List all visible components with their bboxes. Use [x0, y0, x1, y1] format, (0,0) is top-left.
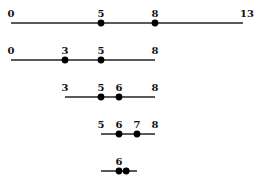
point-marker [98, 57, 105, 64]
tick-label: 8 [152, 82, 159, 93]
point-marker [152, 20, 159, 27]
tick-label: 3 [62, 45, 69, 56]
point-marker [62, 57, 69, 64]
tick-label: 5 [98, 45, 105, 56]
tick-label: 8 [152, 45, 159, 56]
point-marker [123, 168, 130, 175]
number-line-row-4: 5678 [98, 119, 159, 137]
number-line-row-5: 6 [101, 156, 137, 174]
tick-label: 5 [98, 119, 105, 130]
point-marker [98, 20, 105, 27]
tick-label: 5 [98, 8, 105, 19]
tick-label: 13 [240, 8, 254, 19]
number-line-diagram: 058130358356856786 [0, 0, 258, 182]
point-marker [98, 94, 105, 101]
tick-label: 6 [116, 156, 123, 167]
number-line-row-1: 05813 [8, 8, 254, 26]
tick-label: 5 [98, 82, 105, 93]
tick-label: 8 [152, 8, 159, 19]
point-marker [116, 131, 123, 138]
tick-label: 8 [152, 119, 159, 130]
number-line-row-2: 0358 [8, 45, 159, 63]
tick-label: 6 [116, 119, 123, 130]
tick-label: 7 [134, 119, 141, 130]
tick-label: 0 [8, 8, 15, 19]
number-line-row-3: 3568 [62, 82, 159, 100]
point-marker [134, 131, 141, 138]
tick-label: 3 [62, 82, 69, 93]
point-marker [116, 94, 123, 101]
point-marker [116, 168, 123, 175]
tick-label: 0 [8, 45, 15, 56]
tick-label: 6 [116, 82, 123, 93]
